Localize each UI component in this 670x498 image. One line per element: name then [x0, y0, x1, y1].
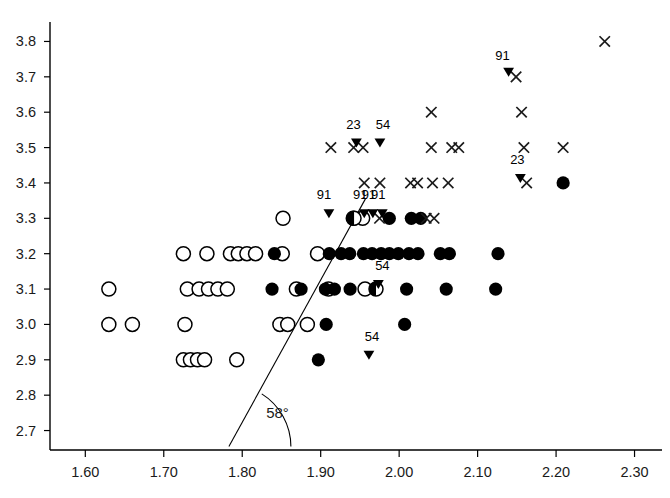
- point-label: 54: [365, 329, 379, 344]
- annotations-group: 9191919154545423239158°: [266, 48, 524, 421]
- open-circle-marker: [230, 353, 244, 367]
- x-marker: [521, 178, 531, 188]
- open-circle-marker: [220, 282, 234, 296]
- x-tick-label: 2.30: [620, 464, 648, 480]
- y-tick-label: 3.8: [16, 33, 36, 49]
- y-tick-label: 2.7: [16, 423, 36, 439]
- x-marker: [454, 142, 464, 152]
- x-marker: [326, 142, 336, 152]
- x-tick-label: 2.00: [385, 464, 413, 480]
- y-tick-label: 3.0: [16, 316, 36, 332]
- open-circle-marker: [125, 317, 139, 331]
- filled-circle-marker: [294, 282, 307, 295]
- x-marker: [511, 72, 521, 82]
- open-circle-marker: [249, 247, 263, 261]
- x-marker: [600, 36, 610, 46]
- filled-circle-marker: [400, 282, 413, 295]
- open-circle-marker: [176, 247, 190, 261]
- x-tick-label: 1.80: [228, 464, 256, 480]
- x-marker: [358, 142, 368, 152]
- filled-circle-marker: [265, 282, 278, 295]
- down-triangle-marker: [324, 209, 335, 218]
- y-tick-label: 3.3: [16, 210, 36, 226]
- x-marker: [443, 178, 453, 188]
- x-marker: [516, 107, 526, 117]
- scatter-plot-figure: 2.72.82.93.03.13.23.33.43.53.63.73.81.60…: [0, 0, 670, 498]
- filled-circle-marker: [343, 247, 356, 260]
- y-tick-label: 2.8: [16, 387, 36, 403]
- down-triangle-marker: [375, 139, 386, 148]
- filled-circle-marker: [320, 318, 333, 331]
- x-marker: [426, 107, 436, 117]
- x-tick-label: 2.20: [542, 464, 570, 480]
- y-tick-label: 3.7: [16, 69, 36, 85]
- filled-circle-marker: [323, 247, 336, 260]
- y-tick-label: 2.9: [16, 352, 36, 368]
- point-label: 23: [510, 152, 524, 167]
- open-circle-marker: [311, 247, 325, 261]
- filled-circle-marker: [491, 247, 504, 260]
- open-circle-marker: [102, 282, 116, 296]
- point-label: 91: [317, 187, 331, 202]
- x-marker: [426, 142, 436, 152]
- regression-line: [229, 199, 366, 447]
- x-marker: [558, 142, 568, 152]
- chart-canvas: 2.72.82.93.03.13.23.33.43.53.63.73.81.60…: [0, 0, 670, 498]
- half-filled-circle-marker: [347, 211, 361, 225]
- filled-circle-marker: [557, 176, 570, 189]
- y-tick-label: 3.1: [16, 281, 36, 297]
- point-label: 54: [376, 117, 390, 132]
- point-label: 54: [375, 258, 389, 273]
- y-tick-label: 3.5: [16, 140, 36, 156]
- x-marker: [429, 213, 439, 223]
- x-tick-label: 1.60: [71, 464, 99, 480]
- filled-circle-marker: [440, 282, 453, 295]
- x-tick-label: 1.70: [150, 464, 178, 480]
- y-tick-label: 3.2: [16, 246, 36, 262]
- y-tick-label: 3.4: [16, 175, 36, 191]
- open-circle-marker: [198, 353, 212, 367]
- open-circle-marker: [102, 317, 116, 331]
- axes-group: [44, 22, 662, 457]
- point-label: 91: [371, 187, 385, 202]
- down-triangle-marker: [364, 351, 375, 360]
- open-circle-marker: [276, 211, 290, 225]
- x-tick-label: 2.10: [463, 464, 491, 480]
- open-circle-marker: [178, 317, 192, 331]
- open-circle-marker: [300, 317, 314, 331]
- x-tick-label: 1.90: [307, 464, 335, 480]
- filled-circle-marker: [398, 318, 411, 331]
- angle-label: 58°: [266, 404, 289, 421]
- point-label: 23: [346, 117, 360, 132]
- open-circle-marker: [200, 247, 214, 261]
- filled-circle-marker: [489, 282, 502, 295]
- x-marker: [412, 178, 422, 188]
- open-circle-marker: [281, 317, 295, 331]
- point-label: 91: [495, 48, 509, 63]
- x-marker: [427, 178, 437, 188]
- filled-circle-marker: [328, 282, 341, 295]
- regression-line-group: [229, 199, 366, 447]
- filled-circle-marker: [411, 247, 424, 260]
- filled-circle-marker: [268, 247, 281, 260]
- y-tick-label: 3.6: [16, 104, 36, 120]
- filled-circle-marker: [344, 282, 357, 295]
- filled-circle-marker: [312, 353, 325, 366]
- filled-circle-marker: [443, 247, 456, 260]
